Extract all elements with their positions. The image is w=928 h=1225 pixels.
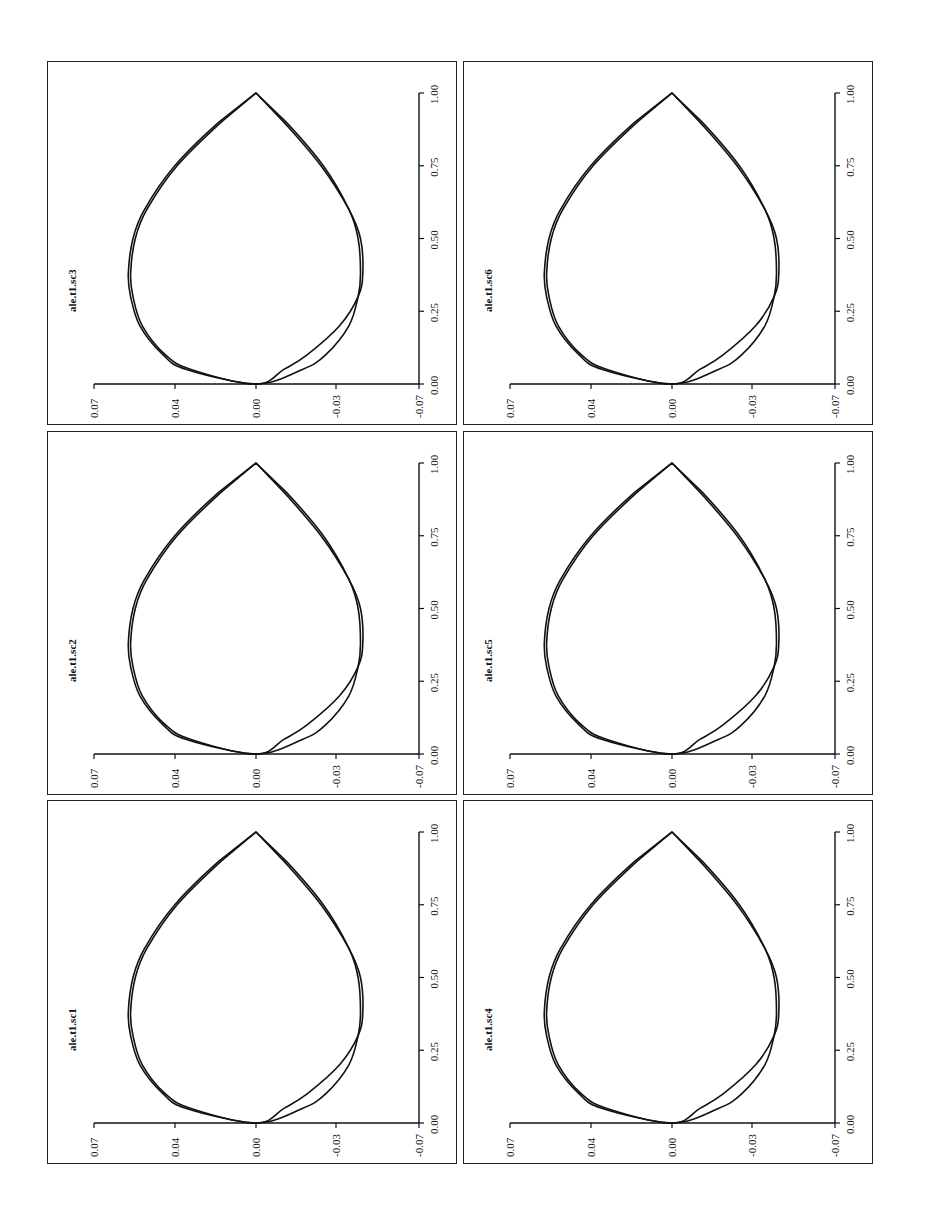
chord-tick-label: 0.00 xyxy=(428,745,440,765)
profile-curve-b xyxy=(131,93,361,384)
chord-tick-label: 0.50 xyxy=(844,969,856,989)
profile-curve-b xyxy=(131,463,361,754)
thickness-tick-label: 0.07 xyxy=(504,398,516,418)
panel-plot: 0.070.040.00-0.03-0.070.000.250.500.751.… xyxy=(48,432,458,796)
thickness-tick-label: -0.03 xyxy=(746,395,758,418)
thickness-tick-label: 0.04 xyxy=(585,1137,597,1157)
thickness-tick-label: -0.07 xyxy=(829,765,841,788)
thickness-tick-label: 0.07 xyxy=(504,1137,516,1157)
chord-tick-label: 1.00 xyxy=(428,84,440,104)
chord-tick-label: 0.75 xyxy=(844,896,856,916)
chord-tick-label: 0.00 xyxy=(428,1114,440,1134)
panel-plot: 0.070.040.00-0.03-0.070.000.250.500.751.… xyxy=(464,62,874,426)
thickness-tick-label: 0.04 xyxy=(169,1137,181,1157)
thickness-tick-label: -0.03 xyxy=(330,395,342,418)
profile-curve-b xyxy=(547,832,777,1123)
thickness-tick-label: 0.00 xyxy=(250,398,262,418)
chord-tick-label: 0.25 xyxy=(428,303,440,323)
panel-sc1: 0.070.040.00-0.03-0.070.000.250.500.751.… xyxy=(47,800,457,1164)
thickness-tick-label: -0.03 xyxy=(746,1134,758,1157)
panel-label: ale.t1.sc2 xyxy=(66,639,78,682)
thickness-tick-label: 0.07 xyxy=(88,398,100,418)
chord-tick-label: 0.75 xyxy=(428,527,440,547)
thickness-tick-label: -0.07 xyxy=(413,395,425,418)
panel-sc2: 0.070.040.00-0.03-0.070.000.250.500.751.… xyxy=(47,431,457,795)
thickness-tick-label: 0.00 xyxy=(250,768,262,788)
thickness-tick-label: 0.07 xyxy=(88,1137,100,1157)
thickness-tick-label: 0.04 xyxy=(585,398,597,418)
thickness-tick-label: -0.07 xyxy=(829,395,841,418)
panel-label: ale.t1.sc1 xyxy=(66,1008,78,1051)
figure-grid: 0.070.040.00-0.03-0.070.000.250.500.751.… xyxy=(47,61,879,1168)
thickness-tick-label: 0.04 xyxy=(585,768,597,788)
thickness-tick-label: 0.04 xyxy=(169,768,181,788)
panel-plot: 0.070.040.00-0.03-0.070.000.250.500.751.… xyxy=(48,801,458,1165)
chord-tick-label: 0.25 xyxy=(844,673,856,693)
chord-tick-label: 0.00 xyxy=(844,375,856,395)
profile-curve-a xyxy=(128,463,363,754)
thickness-tick-label: 0.00 xyxy=(666,398,678,418)
panel-sc3: 0.070.040.00-0.03-0.070.000.250.500.751.… xyxy=(47,61,457,425)
panel-sc5: 0.070.040.00-0.03-0.070.000.250.500.751.… xyxy=(463,431,873,795)
chord-tick-label: 0.25 xyxy=(428,673,440,693)
chord-tick-label: 1.00 xyxy=(844,454,856,474)
chord-tick-label: 0.25 xyxy=(844,303,856,323)
profile-curve-b xyxy=(547,463,777,754)
thickness-tick-label: -0.03 xyxy=(330,1134,342,1157)
thickness-tick-label: 0.04 xyxy=(169,398,181,418)
thickness-tick-label: -0.03 xyxy=(330,765,342,788)
chord-tick-label: 0.00 xyxy=(428,375,440,395)
panel-sc4: 0.070.040.00-0.03-0.070.000.250.500.751.… xyxy=(463,800,873,1164)
chord-tick-label: 0.50 xyxy=(428,969,440,989)
thickness-tick-label: 0.07 xyxy=(504,768,516,788)
thickness-tick-label: 0.00 xyxy=(666,768,678,788)
thickness-tick-label: -0.03 xyxy=(746,765,758,788)
panel-plot: 0.070.040.00-0.03-0.070.000.250.500.751.… xyxy=(464,801,874,1165)
chord-tick-label: 0.00 xyxy=(844,745,856,765)
panel-label: ale.t1.sc3 xyxy=(66,269,78,312)
chord-tick-label: 0.50 xyxy=(844,230,856,250)
thickness-tick-label: 0.07 xyxy=(88,768,100,788)
profile-curve-a xyxy=(544,93,779,384)
panel-label: ale.t1.sc6 xyxy=(482,269,494,312)
profile-curve-b xyxy=(131,832,361,1123)
thickness-tick-label: 0.00 xyxy=(250,1137,262,1157)
chord-tick-label: 0.25 xyxy=(428,1042,440,1062)
chord-tick-label: 0.75 xyxy=(428,896,440,916)
chord-tick-label: 1.00 xyxy=(844,823,856,843)
profile-curve-a xyxy=(544,463,779,754)
panel-sc6: 0.070.040.00-0.03-0.070.000.250.500.751.… xyxy=(463,61,873,425)
chord-tick-label: 0.50 xyxy=(428,600,440,620)
thickness-tick-label: -0.07 xyxy=(413,1134,425,1157)
profile-curve-a xyxy=(544,832,779,1123)
chord-tick-label: 0.75 xyxy=(844,157,856,177)
chord-tick-label: 1.00 xyxy=(428,454,440,474)
panel-plot: 0.070.040.00-0.03-0.070.000.250.500.751.… xyxy=(464,432,874,796)
panel-label: ale.t1.sc4 xyxy=(482,1008,494,1051)
chord-tick-label: 0.50 xyxy=(428,230,440,250)
panel-plot: 0.070.040.00-0.03-0.070.000.250.500.751.… xyxy=(48,62,458,426)
chord-tick-label: 0.75 xyxy=(844,527,856,547)
profile-curve-a xyxy=(128,832,363,1123)
chord-tick-label: 0.50 xyxy=(844,600,856,620)
panel-label: ale.t1.sc5 xyxy=(482,639,494,682)
chord-tick-label: 0.00 xyxy=(844,1114,856,1134)
thickness-tick-label: 0.00 xyxy=(666,1137,678,1157)
chord-tick-label: 0.25 xyxy=(844,1042,856,1062)
profile-curve-b xyxy=(547,93,777,384)
chord-tick-label: 1.00 xyxy=(428,823,440,843)
thickness-tick-label: -0.07 xyxy=(413,765,425,788)
thickness-tick-label: -0.07 xyxy=(829,1134,841,1157)
profile-curve-a xyxy=(128,93,363,384)
chord-tick-label: 1.00 xyxy=(844,84,856,104)
chord-tick-label: 0.75 xyxy=(428,157,440,177)
